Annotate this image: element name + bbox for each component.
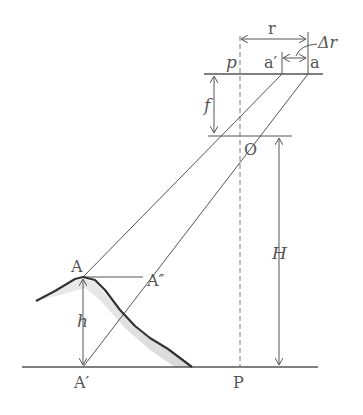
label-O: O	[244, 140, 257, 159]
ray-a-prime-to-A	[83, 74, 282, 277]
label-h: h	[77, 311, 88, 331]
label-f: f	[202, 95, 213, 115]
ray-a-to-A-prime	[83, 74, 308, 367]
label-a-prime: a′	[264, 53, 278, 72]
label-A: A	[70, 257, 83, 276]
label-r: r	[268, 19, 276, 38]
mountain-shading	[40, 279, 192, 367]
label-delta-r: Δr	[317, 33, 339, 52]
label-A-double-prime: A″	[146, 271, 165, 290]
label-P: P	[233, 373, 244, 392]
label-H: H	[271, 243, 288, 263]
relief-displacement-diagram: p a′ a r Δr f O H A A″ h A′ P	[0, 0, 363, 415]
label-a: a	[310, 53, 320, 72]
label-p: p	[226, 52, 237, 72]
label-A-prime: A′	[73, 373, 90, 392]
